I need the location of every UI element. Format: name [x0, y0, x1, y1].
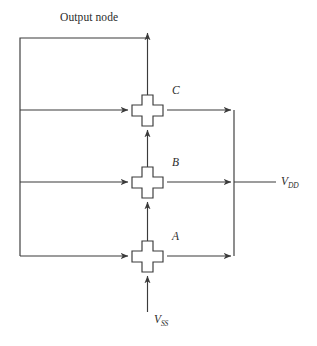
transistor-symbol-a	[132, 241, 163, 272]
transistor-label-a: A	[172, 231, 179, 243]
circuit-diagram: Output node C B A VDD VSS	[0, 0, 317, 346]
vss-label-subscript: SS	[161, 319, 168, 328]
vss-label: VSS	[154, 314, 168, 326]
vdd-label-subscript: DD	[288, 181, 298, 190]
transistor-symbol-b	[132, 167, 163, 198]
transistor-symbol-c	[132, 95, 163, 126]
output-node-bus	[20, 38, 148, 256]
transistor-label-c: C	[172, 85, 180, 97]
circuit-schematic-svg	[0, 0, 317, 346]
vdd-label-text: V	[281, 175, 288, 187]
transistor-label-b: B	[172, 157, 179, 169]
vss-label-text: V	[154, 313, 161, 325]
output-node-label: Output node	[60, 12, 118, 24]
vdd-label: VDD	[281, 176, 298, 188]
